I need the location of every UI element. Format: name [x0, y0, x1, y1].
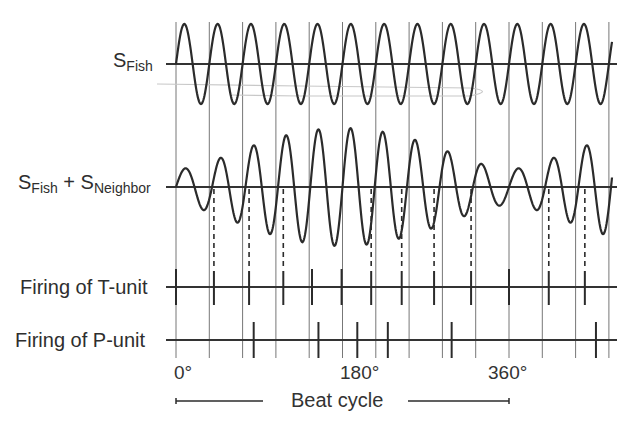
beat-cycle-label: Beat cycle — [291, 390, 383, 410]
s-fish-label: SFish — [113, 50, 153, 73]
tick-180-deg: 180° — [340, 363, 379, 382]
s-sum-label: SFish + SNeighbor — [18, 172, 151, 195]
plus-sign: + — [58, 171, 81, 193]
s-fish-label-main: S — [113, 49, 126, 71]
zero-crossing-dashes — [214, 189, 585, 269]
tick-0-deg: 0° — [174, 363, 192, 382]
tick-360-deg: 360° — [488, 363, 527, 382]
s-sum-label-neighbor-sub: Neighbor — [94, 180, 151, 196]
s-sum-label-neighbor-main: S — [81, 171, 94, 193]
s-sum-label-fish-sub: Fish — [31, 180, 57, 196]
s-sum-label-fish-main: S — [18, 171, 31, 193]
signal-plot — [0, 0, 631, 429]
t-unit-label: Firing of T-unit — [20, 277, 147, 297]
beat-cycle-diagram: SFish SFish + SNeighbor Firing of T-unit… — [0, 0, 631, 429]
p-unit-label: Firing of P-unit — [15, 330, 145, 350]
s-fish-label-sub: Fish — [126, 58, 152, 74]
